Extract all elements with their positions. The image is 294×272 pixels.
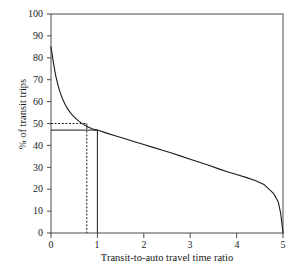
x-tick-label-4: 4 (227, 240, 247, 250)
y-axis-ticks (47, 14, 51, 233)
plot-frame (51, 14, 283, 233)
y-tick-label-0: 0 (21, 228, 43, 238)
solid-reference-lines (51, 130, 97, 233)
x-tick-label-2: 2 (134, 240, 154, 250)
transit-share-curve (51, 47, 283, 233)
dashed-reference-lines (51, 124, 87, 234)
x-tick-label-5: 5 (273, 240, 293, 250)
x-tick-label-0: 0 (41, 240, 61, 250)
y-tick-label-10: 10 (21, 206, 43, 216)
y-tick-label-100: 100 (21, 9, 43, 19)
chart-figure: 100 90 80 70 60 50 40 30 20 10 0 0 1 2 3… (0, 0, 294, 272)
x-tick-label-3: 3 (180, 240, 200, 250)
y-tick-label-90: 90 (21, 31, 43, 41)
y-tick-label-20: 20 (21, 184, 43, 194)
x-axis-title: Transit-to-auto travel time ratio (51, 252, 283, 264)
x-axis-ticks (51, 233, 283, 238)
y-axis-title: % of transit trips (17, 44, 29, 184)
x-tick-label-1: 1 (87, 240, 107, 250)
plot-canvas (0, 0, 294, 272)
